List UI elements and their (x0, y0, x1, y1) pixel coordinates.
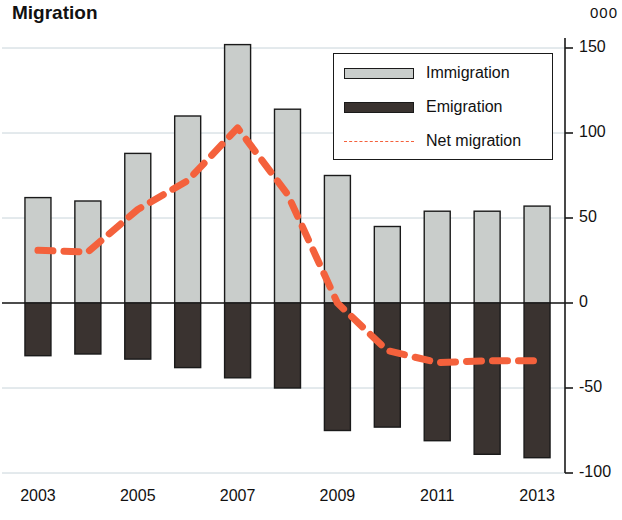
bar-emigration (225, 303, 251, 378)
bar-emigration (25, 303, 51, 356)
y-tick-label: 0 (579, 293, 588, 311)
bar-immigration (374, 227, 400, 304)
bar-emigration (324, 303, 350, 431)
x-tick-label: 2003 (12, 487, 64, 505)
bar-emigration (175, 303, 201, 368)
legend-label-immigration: Immigration (426, 64, 510, 82)
bar-emigration (275, 303, 301, 388)
bar-emigration (524, 303, 550, 458)
legend-item-immigration: Immigration (344, 62, 510, 84)
bar-immigration (225, 45, 251, 303)
legend-item-emigration: Emigration (344, 96, 502, 118)
x-tick-label: 2013 (511, 487, 563, 505)
migration-chart: Migration 000 150100500-50-100 200320052… (0, 0, 622, 520)
y-tick-label: -50 (579, 378, 602, 396)
legend-item-net-migration: Net migration (344, 130, 521, 152)
bar-emigration (75, 303, 101, 354)
legend-swatch-net-migration (344, 141, 414, 142)
x-tick-label: 2007 (212, 487, 264, 505)
bar-immigration (474, 211, 500, 303)
x-tick-label: 2005 (112, 487, 164, 505)
legend-label-net-migration: Net migration (426, 132, 521, 150)
bar-emigration (374, 303, 400, 427)
bar-immigration (524, 206, 550, 303)
chart-legend: Immigration Emigration Net migration (333, 53, 553, 160)
bar-immigration (175, 116, 201, 303)
y-tick-label: 50 (579, 208, 597, 226)
y-tick-label: -100 (579, 463, 611, 481)
bar-emigration (474, 303, 500, 454)
bar-emigration (424, 303, 450, 441)
x-tick-label: 2009 (311, 487, 363, 505)
legend-label-emigration: Emigration (426, 98, 502, 116)
x-tick-label: 2011 (411, 487, 463, 505)
bar-immigration (424, 211, 450, 303)
legend-swatch-immigration (344, 68, 414, 79)
y-tick-label: 150 (579, 38, 606, 56)
y-tick-label: 100 (579, 123, 606, 141)
legend-swatch-emigration (344, 102, 414, 113)
bar-immigration (125, 153, 151, 303)
bar-emigration (125, 303, 151, 359)
